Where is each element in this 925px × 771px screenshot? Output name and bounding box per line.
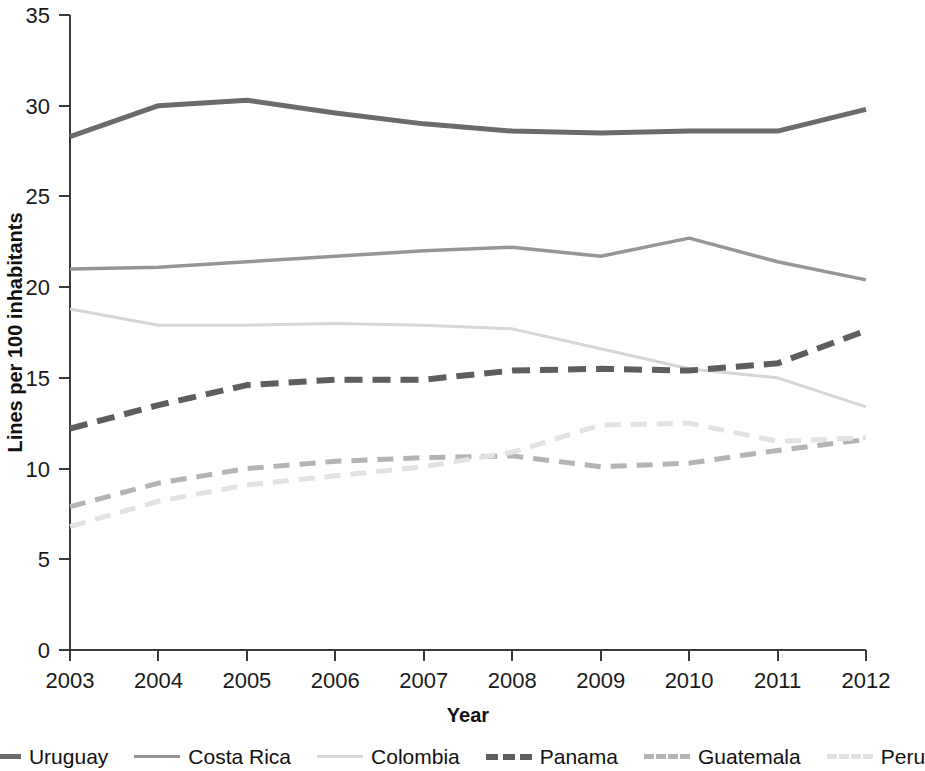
x-tick-label: 2004 [134,668,183,693]
y-tick-label: 5 [38,547,50,572]
legend-item-guatemala[interactable]: Guatemala [644,746,801,767]
series-line-panama [70,331,866,429]
y-tick-label: 10 [26,457,50,482]
series-line-uruguay [70,100,866,136]
legend-label: Guatemala [698,746,801,767]
x-tick-label: 2003 [46,668,95,693]
y-axis-ticks: 05101520253035 [26,3,70,663]
y-tick-label: 30 [26,94,50,119]
legend-line-swatch [644,754,690,759]
legend-label: Peru [881,746,925,767]
legend-label: Uruguay [29,746,108,767]
legend-label: Panama [540,746,618,767]
x-tick-label: 2005 [222,668,271,693]
x-tick-label: 2012 [842,668,891,693]
x-tick-label: 2010 [665,668,714,693]
y-tick-label: 25 [26,184,50,209]
legend-line-swatch [0,754,21,759]
legend-line-swatch [317,755,363,758]
legend-label: Costa Rica [188,746,291,767]
series-line-peru [70,423,866,526]
chart-legend: UruguayCosta RicaColombiaPanamaGuatemala… [0,742,900,771]
legend-item-uruguay[interactable]: Uruguay [0,746,108,767]
legend-line-swatch [486,754,532,760]
x-axis-ticks: 2003200420052006200720082009201020112012 [46,650,891,693]
legend-label: Colombia [371,746,460,767]
line-chart-canvas: 05101520253035 2003200420052006200720082… [0,0,900,742]
y-tick-label: 0 [38,638,50,663]
x-tick-label: 2007 [399,668,448,693]
x-tick-label: 2011 [754,668,801,693]
legend-line-swatch [134,755,180,758]
series-lines [70,100,866,526]
y-tick-label: 35 [26,3,50,28]
legend-item-peru[interactable]: Peru [827,746,925,767]
legend-item-colombia[interactable]: Colombia [317,746,460,767]
x-tick-label: 2008 [488,668,537,693]
x-axis-title: Year [447,704,489,726]
series-line-costa-rica [70,238,866,280]
series-line-colombia [70,309,866,407]
legend-item-panama[interactable]: Panama [486,746,618,767]
series-line-guatemala [70,440,866,507]
x-tick-label: 2009 [576,668,625,693]
y-tick-label: 20 [26,275,50,300]
legend-item-costa-rica[interactable]: Costa Rica [134,746,291,767]
y-axis-title: Lines per 100 inhabitants [4,212,26,452]
y-tick-label: 15 [26,366,50,391]
x-tick-label: 2006 [311,668,360,693]
legend-line-swatch [827,754,873,759]
